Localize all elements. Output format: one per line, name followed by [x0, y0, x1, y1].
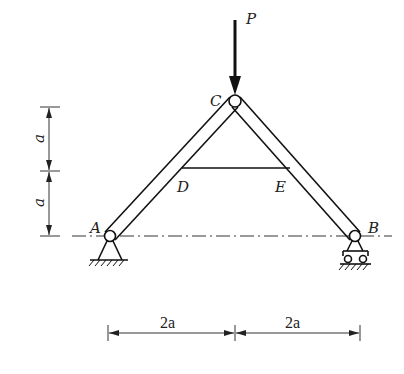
hinge-c-icon: [229, 95, 241, 107]
load-arrow-icon: [229, 20, 241, 95]
vertical-dimension: [40, 107, 60, 236]
truss-diagram: P C A B D E a a 2a 2a: [0, 0, 404, 374]
dim-horizontal-left: 2a: [160, 314, 175, 331]
horizontal-dimension: [108, 325, 360, 341]
hinge-a-icon: [105, 231, 116, 242]
dim-vertical-upper: a: [30, 134, 48, 143]
label-d: D: [176, 178, 189, 196]
label-e: E: [274, 178, 286, 196]
pinned-support-a-icon: [89, 241, 128, 266]
hinge-b-icon: [350, 231, 361, 242]
label-b: B: [367, 219, 379, 237]
label-a: A: [88, 219, 101, 237]
dim-vertical-lower: a: [30, 198, 48, 207]
roller-support-b-icon: [339, 241, 371, 270]
label-p: P: [245, 10, 257, 28]
label-c: C: [210, 92, 222, 110]
dim-horizontal-right: 2a: [285, 314, 300, 331]
